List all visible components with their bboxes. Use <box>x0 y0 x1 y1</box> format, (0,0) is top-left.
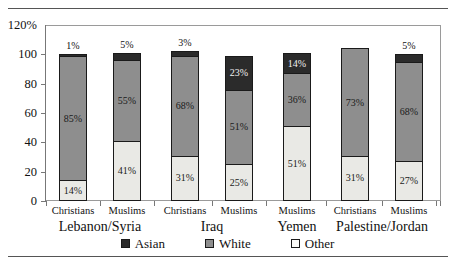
bar-segment-asian <box>113 53 141 60</box>
y-axis-tick-label: 0 <box>31 195 37 207</box>
bar-segment-label: 14% <box>64 186 82 196</box>
legend-item: White <box>205 237 251 250</box>
y-axis-labels: 120%100806040200 <box>0 0 45 268</box>
bar-segment-label: 31% <box>346 173 364 183</box>
top-horizontal-rule <box>8 8 448 9</box>
bar-segment-white: 36% <box>283 73 311 126</box>
bar-segment-label: 55% <box>118 96 136 106</box>
bar-segment-label: 68% <box>176 101 194 111</box>
bar-segment-other: 25% <box>225 164 253 201</box>
chart-figure: 120%100806040200 85%14%55%41%68%31%23%51… <box>0 0 455 268</box>
legend-label: White <box>219 237 251 250</box>
bar-total-label: 5% <box>402 41 415 51</box>
bottom-horizontal-rule <box>8 256 448 257</box>
y-axis-tick-label: 60 <box>25 107 38 119</box>
stacked-bar: 23%51%25% <box>225 56 253 201</box>
x-axis-category-label: Christians <box>52 205 95 216</box>
bar-segment-asian: 23% <box>225 56 253 90</box>
legend-label: Other <box>305 237 335 250</box>
stacked-bar: 85%14% <box>59 54 87 201</box>
bar-segment-label: 25% <box>230 178 248 188</box>
bar-segment-white: 68% <box>171 56 199 156</box>
x-axis-category-label: Muslims <box>279 205 316 216</box>
x-axis-group-label: Yemen <box>277 219 316 234</box>
legend-swatch-asian <box>121 239 130 248</box>
bar-segment-white: 73% <box>341 48 369 155</box>
bar-segment-label: 41% <box>118 166 136 176</box>
bar-segment-asian <box>395 54 423 61</box>
bar-segment-label: 23% <box>230 68 248 78</box>
bar-segment-other: 51% <box>283 126 311 201</box>
x-axis-tick-mark <box>436 201 437 206</box>
stacked-bar: 14%36%51% <box>283 53 311 201</box>
stacked-bar: 68%27% <box>395 54 423 201</box>
bar-segment-white: 85% <box>59 56 87 181</box>
chart-legend: AsianWhiteOther <box>0 234 455 252</box>
bar-segment-label: 36% <box>288 95 306 105</box>
y-axis-tick-label: 120% <box>8 19 37 31</box>
bar-segment-other: 31% <box>171 156 199 201</box>
bars-container: 85%14%55%41%68%31%23%51%25%14%36%51%73%3… <box>45 25 441 201</box>
bar-segment-label: 31% <box>176 173 194 183</box>
bar-segment-white: 51% <box>225 90 253 165</box>
stacked-bar: 68%31% <box>171 51 199 201</box>
x-axis-tick-mark <box>100 201 101 206</box>
bar-segment-label: 85% <box>64 114 82 124</box>
bar-segment-label: 73% <box>346 98 364 108</box>
x-axis-tick-mark <box>212 201 213 206</box>
x-axis-category-label: Muslims <box>109 205 146 216</box>
stacked-bar: 55%41% <box>113 53 141 201</box>
legend-item: Asian <box>121 237 165 250</box>
bar-segment-label: 27% <box>400 176 418 186</box>
y-axis-tick-label: 20 <box>25 166 38 178</box>
bar-segment-label: 14% <box>288 59 306 69</box>
bar-segment-other: 31% <box>341 156 369 201</box>
y-axis-tick-label: 80 <box>25 78 38 90</box>
bar-segment-white: 68% <box>395 62 423 162</box>
bar-segment-white: 55% <box>113 60 141 141</box>
legend-swatch-other <box>291 239 300 248</box>
x-axis-tick-mark <box>326 201 327 206</box>
bar-segment-asian: 14% <box>283 53 311 74</box>
legend-swatch-white <box>205 239 214 248</box>
bar-segment-label: 51% <box>288 159 306 169</box>
x-axis-category-label: Christians <box>334 205 377 216</box>
bar-segment-label: 68% <box>400 107 418 117</box>
x-axis-category-label: Muslims <box>391 205 428 216</box>
bar-segment-label: 51% <box>230 122 248 132</box>
bar-total-label: 5% <box>120 40 133 50</box>
x-axis-tick-mark <box>382 201 383 206</box>
bar-total-label: 1% <box>66 41 79 51</box>
bar-segment-other: 14% <box>59 180 87 201</box>
x-axis-tick-mark <box>46 201 47 206</box>
x-axis-category-label: Muslims <box>221 205 258 216</box>
x-axis-group-label: Iraq <box>201 219 224 234</box>
x-axis-tick-mark <box>266 201 267 206</box>
stacked-bar: 73%31% <box>341 48 369 201</box>
x-axis-group-label: Lebanon/Syria <box>59 219 141 234</box>
x-axis-category-label: Christians <box>164 205 207 216</box>
legend-item: Other <box>291 237 335 250</box>
x-axis-group-label: Palestine/Jordan <box>336 219 428 234</box>
x-axis-tick-mark <box>440 201 441 206</box>
legend-label: Asian <box>135 237 165 250</box>
bar-segment-other: 41% <box>113 141 141 201</box>
x-axis-tick-mark <box>154 201 155 206</box>
bar-segment-other: 27% <box>395 161 423 201</box>
bar-total-label: 3% <box>178 38 191 48</box>
y-axis-tick-label: 100 <box>18 48 37 60</box>
y-axis-tick-label: 40 <box>25 136 38 148</box>
